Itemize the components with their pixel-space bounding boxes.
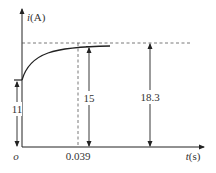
x-axis-label: t(s) bbox=[186, 150, 201, 163]
dim-label-18-3: 18.3 bbox=[140, 91, 160, 103]
dim-label-15: 15 bbox=[84, 92, 96, 104]
origin-label: o bbox=[13, 150, 19, 162]
x-tick-label: 0.039 bbox=[66, 150, 91, 162]
y-axis-label: i(A) bbox=[27, 11, 46, 24]
dim-label-11: 11 bbox=[12, 103, 23, 115]
current-response-diagram: i(A) 11 15 18.3 o 0.039 t(s) bbox=[0, 0, 216, 173]
current-curve bbox=[22, 46, 110, 80]
